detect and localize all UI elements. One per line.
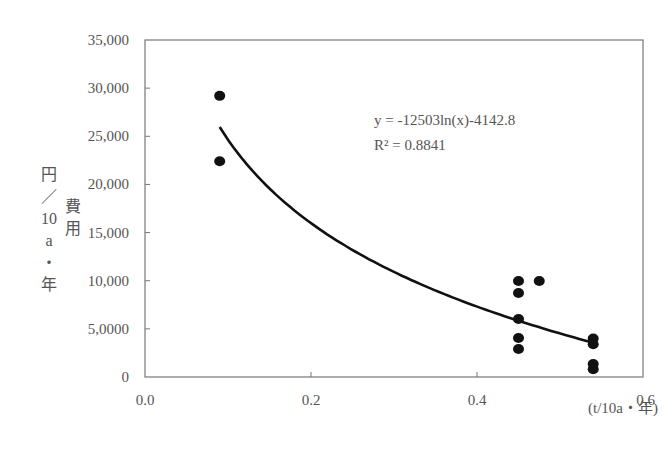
y-tick-label: 0 bbox=[122, 369, 130, 385]
x-tick-label: 0.0 bbox=[136, 392, 155, 408]
data-point bbox=[513, 333, 524, 343]
data-point bbox=[534, 276, 545, 286]
y-tick-label: 30,000 bbox=[88, 80, 129, 96]
x-tick-label: 0.4 bbox=[468, 392, 487, 408]
y-tick-label: 5,0000 bbox=[88, 321, 129, 337]
y-tick-label: 35,000 bbox=[88, 32, 129, 48]
data-point bbox=[214, 91, 225, 101]
data-point bbox=[513, 288, 524, 298]
chart: 05,000010,00015,00020,00025,00030,00035,… bbox=[0, 0, 668, 460]
data-point bbox=[214, 156, 225, 166]
y-tick-label: 10,000 bbox=[88, 273, 129, 289]
data-point bbox=[513, 344, 524, 354]
y-tick-label: 25,000 bbox=[88, 128, 129, 144]
y-axis-label-char: 10 bbox=[41, 210, 57, 227]
r-squared-annotation: R² = 0.8841 bbox=[374, 137, 446, 153]
y-axis-label-char: ・ bbox=[41, 254, 57, 271]
data-point bbox=[588, 364, 599, 374]
y-axis-label: 円／10a・年費用 bbox=[41, 166, 81, 293]
y-axis-label-char: ／ bbox=[41, 188, 57, 205]
y-axis-label-char: a bbox=[45, 232, 52, 249]
data-point bbox=[513, 276, 524, 286]
x-axis-label: (t/10a・年) bbox=[588, 400, 658, 417]
y-tick-label: 15,000 bbox=[88, 225, 129, 241]
plot-area bbox=[145, 40, 643, 377]
equation-annotation: y = -12503ln(x)-4142.8 bbox=[374, 112, 515, 129]
y-axis-label-char: 年 bbox=[41, 276, 57, 293]
y-axis: 05,000010,00015,00020,00025,00030,00035,… bbox=[88, 32, 150, 385]
y-axis-label-char: 費 bbox=[65, 198, 81, 215]
y-tick-label: 20,000 bbox=[88, 176, 129, 192]
data-point bbox=[513, 314, 524, 324]
data-point bbox=[588, 339, 599, 349]
y-axis-label-char: 円 bbox=[41, 166, 57, 183]
y-axis-label-char: 用 bbox=[65, 220, 81, 237]
x-tick-label: 0.2 bbox=[302, 392, 321, 408]
